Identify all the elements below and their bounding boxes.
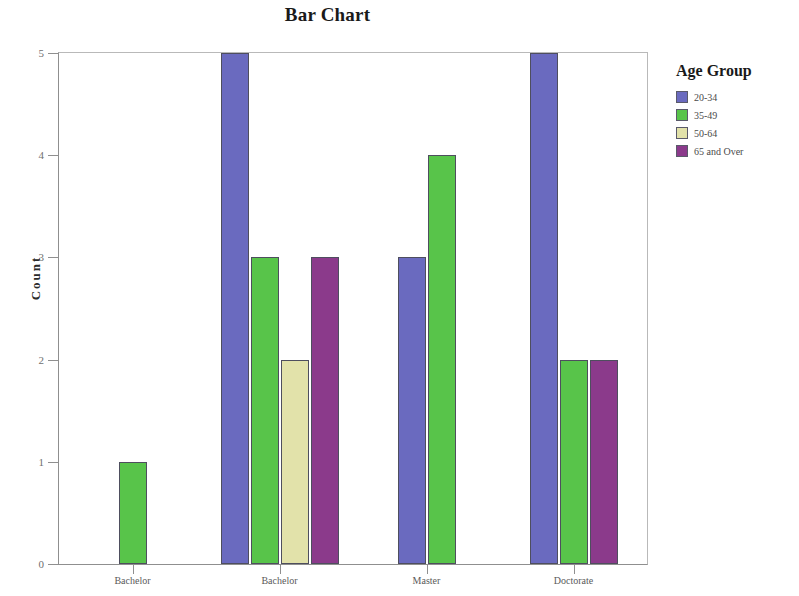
y-axis-tick: [48, 257, 58, 258]
legend-color-swatch-icon: [676, 145, 688, 157]
legend-entry-label: 65 and Over: [694, 146, 743, 157]
x-axis-category-label: Doctorate: [484, 575, 664, 586]
x-axis-tick: [280, 565, 281, 574]
bar: [281, 360, 309, 564]
bar: [428, 155, 456, 564]
x-axis-tick: [427, 565, 428, 574]
y-axis-tick-label: 4: [24, 150, 44, 160]
legend-entry[interactable]: 50-64: [676, 125, 799, 141]
y-axis-tick: [48, 360, 58, 361]
legend-entry-label: 35-49: [694, 110, 717, 121]
legend-entry[interactable]: 20-34: [676, 89, 799, 105]
y-axis-tick-label: 5: [24, 48, 44, 58]
bar-series-layer: [59, 53, 647, 564]
legend-entry-list: 20-3435-4950-6465 and Over: [676, 89, 799, 159]
chart-title: Bar Chart: [0, 4, 655, 26]
y-axis-tick-label: 3: [24, 252, 44, 262]
y-axis-tick: [48, 564, 58, 565]
legend-entry-label: 20-34: [694, 92, 717, 103]
legend-title: Age Group: [676, 62, 799, 80]
legend-color-swatch-icon: [676, 91, 688, 103]
bar: [221, 53, 249, 564]
y-axis-tick: [48, 53, 58, 54]
bar: [560, 360, 588, 564]
bar: [398, 257, 426, 564]
bar: [119, 462, 147, 564]
bar: [251, 257, 279, 564]
legend-entry[interactable]: 35-49: [676, 107, 799, 123]
legend-entry-label: 50-64: [694, 128, 717, 139]
legend-color-swatch-icon: [676, 109, 688, 121]
y-axis-tick: [48, 155, 58, 156]
legend-color-swatch-icon: [676, 127, 688, 139]
legend: Age Group 20-3435-4950-6465 and Over: [676, 62, 799, 161]
bar: [590, 360, 618, 564]
y-axis-tick-label: 0: [24, 559, 44, 569]
x-axis-tick: [133, 565, 134, 574]
bar: [311, 257, 339, 564]
y-axis-tick: [48, 462, 58, 463]
y-axis-tick-label: 2: [24, 355, 44, 365]
y-axis-label: Count: [28, 238, 44, 318]
legend-entry[interactable]: 65 and Over: [676, 143, 799, 159]
bar: [530, 53, 558, 564]
y-axis-tick-label: 1: [24, 457, 44, 467]
x-axis-tick: [574, 565, 575, 574]
